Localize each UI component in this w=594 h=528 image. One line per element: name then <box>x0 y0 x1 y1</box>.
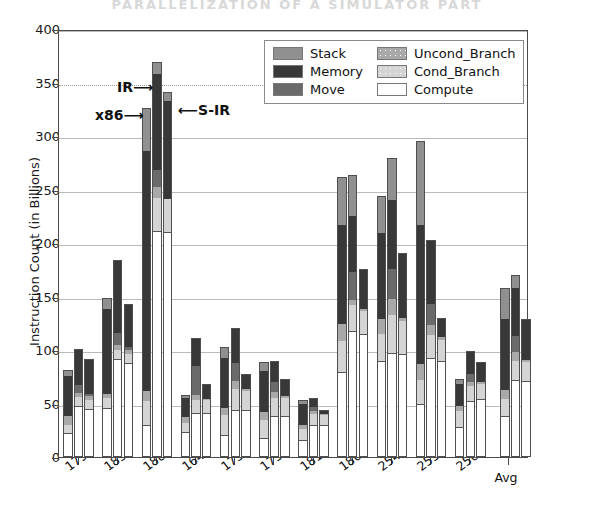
bar-segment-stack <box>500 288 509 319</box>
bar-segment-uncond_branch <box>191 395 200 400</box>
bar-ir <box>348 175 357 457</box>
bar-segment-uncond_branch <box>455 406 464 411</box>
bar-segment-compute <box>152 231 161 457</box>
bar-x86 <box>220 347 229 457</box>
bar-segment-move <box>270 382 279 392</box>
bar-segment-cond_branch <box>181 423 190 433</box>
bar-ir <box>74 349 83 457</box>
bar-segment-memory <box>191 338 200 366</box>
bar-segment-compute <box>280 416 289 457</box>
bar-segment-compute <box>231 410 240 457</box>
legend-label: Move <box>310 82 345 97</box>
bar-segment-move <box>152 170 161 187</box>
bar-x86 <box>455 379 464 457</box>
bar-segment-move <box>74 385 83 392</box>
y-tick-mark <box>52 458 58 459</box>
bar-segment-uncond_branch <box>398 318 407 321</box>
bar-sir <box>476 362 485 457</box>
bar-segment-cond_branch <box>437 340 446 360</box>
x-tick-mark <box>508 458 509 465</box>
bar-segment-compute <box>337 372 346 457</box>
bar-sir <box>163 92 172 457</box>
bar-segment-move <box>466 374 475 383</box>
bar-segment-cond_branch <box>348 305 357 331</box>
bar-segment-stack <box>416 141 425 224</box>
bar-segment-uncond_branch <box>476 382 485 384</box>
bar-segment-compute <box>511 380 520 457</box>
bar-segment-cond_branch <box>387 315 396 354</box>
annotation-x86: x86⟶ <box>95 107 144 123</box>
bar-sir <box>521 319 530 457</box>
bar-segment-cond_branch <box>124 354 133 363</box>
bar-segment-compute <box>387 353 396 457</box>
bar-x86 <box>181 395 190 457</box>
bar-ir <box>426 240 435 457</box>
bar-segment-compute <box>163 232 172 457</box>
bar-ir <box>387 158 396 457</box>
bar-segment-compute <box>309 425 318 457</box>
bar-segment-compute <box>398 354 407 457</box>
bar-segment-cond_branch <box>74 397 83 406</box>
bar-segment-memory <box>426 240 435 304</box>
bar-segment-cond_branch <box>231 389 240 410</box>
bar-sir <box>437 318 446 457</box>
bar-segment-uncond_branch <box>202 399 211 400</box>
bar-x86 <box>416 141 425 457</box>
bar-x86 <box>377 196 386 457</box>
bar-segment-compute <box>63 433 72 457</box>
bar-segment-cond_branch <box>455 411 464 427</box>
bar-segment-memory <box>113 260 122 333</box>
bar-segment-memory <box>377 233 386 319</box>
bar-segment-memory <box>74 349 83 385</box>
bar-segment-compute <box>181 432 190 457</box>
bar-segment-memory <box>500 319 509 390</box>
bar-segment-compute <box>348 331 357 457</box>
bar-segment-memory <box>359 269 368 310</box>
bar-segment-compute <box>202 413 211 457</box>
legend-item-stack[interactable]: Stack <box>273 46 363 61</box>
bar-segment-memory <box>398 253 407 318</box>
bar-segment-memory <box>476 362 485 382</box>
bar-segment-uncond_branch <box>102 394 111 398</box>
legend-item-uncond_branch[interactable]: Uncond_Branch <box>377 46 516 61</box>
bar-segment-cond_branch <box>113 350 122 359</box>
bar-x86 <box>298 400 307 457</box>
bar-segment-move <box>511 336 520 352</box>
bar-segment-uncond_branch <box>466 382 475 386</box>
bar-segment-memory <box>466 351 475 373</box>
legend-swatch-icon <box>273 65 303 78</box>
bar-segment-compute <box>521 381 530 457</box>
bar-segment-cond_branch <box>511 361 520 380</box>
bar-segment-cond_branch <box>241 391 250 410</box>
bar-sir <box>359 269 368 457</box>
gridline <box>59 192 527 193</box>
bar-segment-stack <box>181 395 190 398</box>
bar-segment-compute <box>319 425 328 457</box>
bar-segment-compute <box>426 358 435 458</box>
bar-segment-cond_branch <box>280 398 289 416</box>
chart-legend: StackMemoryMove Uncond_BranchCond_Branch… <box>264 40 524 104</box>
bar-segment-move <box>309 407 318 411</box>
bar-x86 <box>259 362 268 457</box>
legend-column-right: Uncond_BranchCond_BranchCompute <box>377 46 516 97</box>
annotation-s-ir: ⟵S-IR <box>178 102 230 118</box>
bar-ir <box>191 338 200 457</box>
bar-segment-stack <box>387 158 396 200</box>
bar-x86 <box>63 370 72 457</box>
legend-item-move[interactable]: Move <box>273 82 363 97</box>
bar-segment-uncond_branch <box>181 417 190 422</box>
legend-item-memory[interactable]: Memory <box>273 64 363 79</box>
legend-item-cond_branch[interactable]: Cond_Branch <box>377 64 516 79</box>
legend-item-compute[interactable]: Compute <box>377 82 516 97</box>
bar-ir <box>270 361 279 457</box>
bar-segment-memory <box>455 384 464 405</box>
legend-swatch-icon <box>377 65 407 78</box>
bar-segment-cond_branch <box>377 334 386 361</box>
legend-swatch-icon <box>273 47 303 60</box>
bar-segment-move <box>426 304 435 325</box>
bar-segment-uncond_branch <box>348 300 357 305</box>
bar-segment-memory <box>280 379 289 396</box>
gridline <box>59 245 527 246</box>
bar-segment-uncond_branch <box>63 416 72 425</box>
bar-segment-memory <box>259 371 268 412</box>
